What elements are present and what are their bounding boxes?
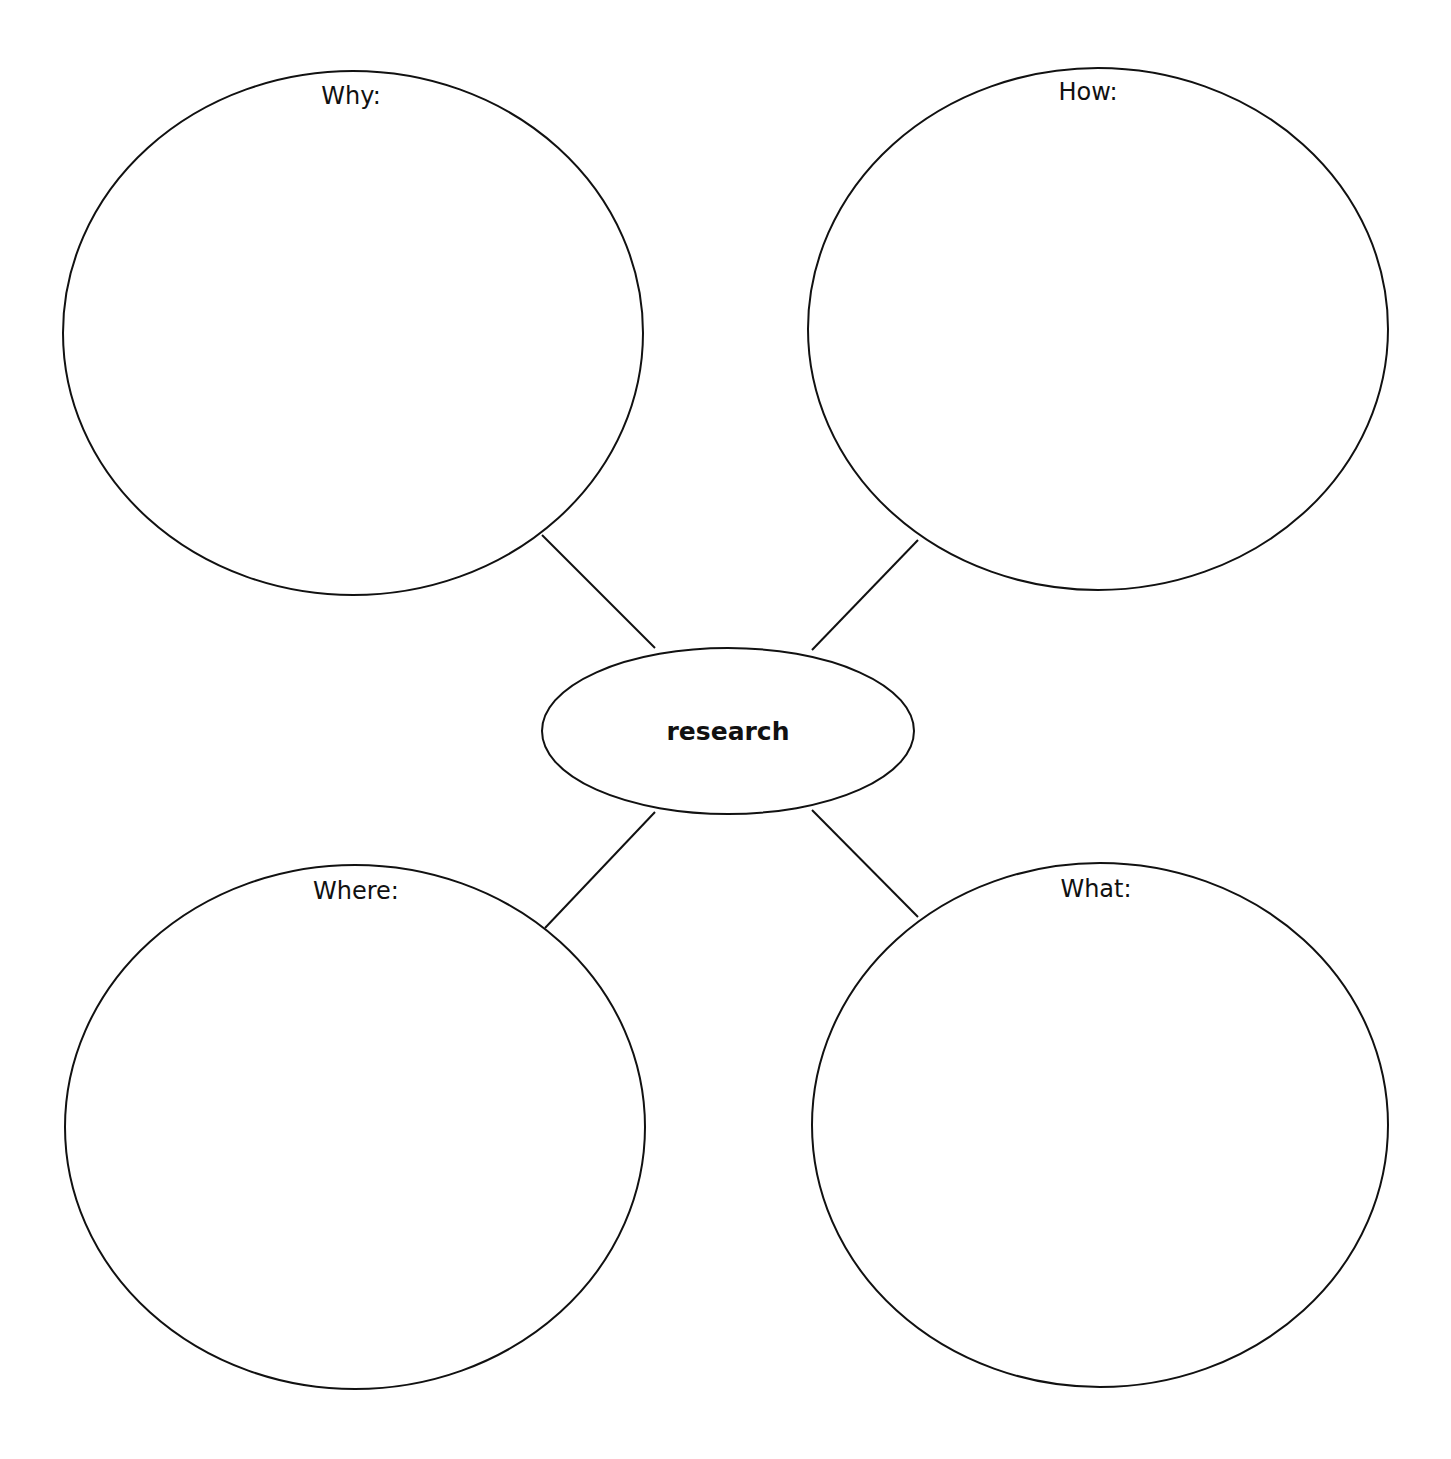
connector-line-why <box>542 535 655 648</box>
center-topic-label: research <box>667 717 790 746</box>
topic-label-where: Where: <box>313 877 399 905</box>
topic-label-what: What: <box>1060 875 1131 903</box>
topic-ellipse-where <box>65 865 645 1389</box>
topic-ellipse-why <box>63 71 643 595</box>
topic-ellipse-what <box>812 863 1388 1387</box>
topic-label-how: How: <box>1058 78 1117 106</box>
topic-label-why: Why: <box>321 82 380 110</box>
connector-line-what <box>812 810 918 917</box>
topic-ellipse-how <box>808 68 1388 590</box>
connector-line-where <box>545 812 655 928</box>
connector-line-how <box>812 540 918 650</box>
